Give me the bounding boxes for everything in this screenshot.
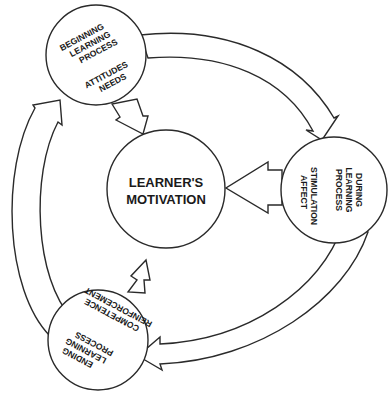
center-label-line2: MOTIVATION (126, 192, 206, 207)
arrow-beginning-to-center (112, 99, 148, 134)
during-labels: DURING LEARNING PROCESS (334, 168, 364, 213)
arrow-during-to-center (226, 162, 282, 213)
arc-arrow-beginning-to-during (140, 33, 338, 140)
arc-arrow-ending-to-beginning (12, 100, 72, 336)
during-stage-line1: DURING (354, 173, 364, 207)
during-stage-line3: PROCESS (334, 169, 344, 211)
arrow-ending-to-center (128, 260, 150, 293)
motivation-cycle-diagram: LEARNER'S MOTIVATION BEGINNING LEARNING … (0, 0, 390, 398)
circle-during (281, 137, 387, 243)
center-label-line1: LEARNER'S (129, 175, 204, 190)
during-factor-affect: AFFECT (299, 175, 309, 210)
during-stage-line2: LEARNING (344, 168, 354, 213)
during-factor-stimulation: STIMULATION (309, 167, 319, 225)
